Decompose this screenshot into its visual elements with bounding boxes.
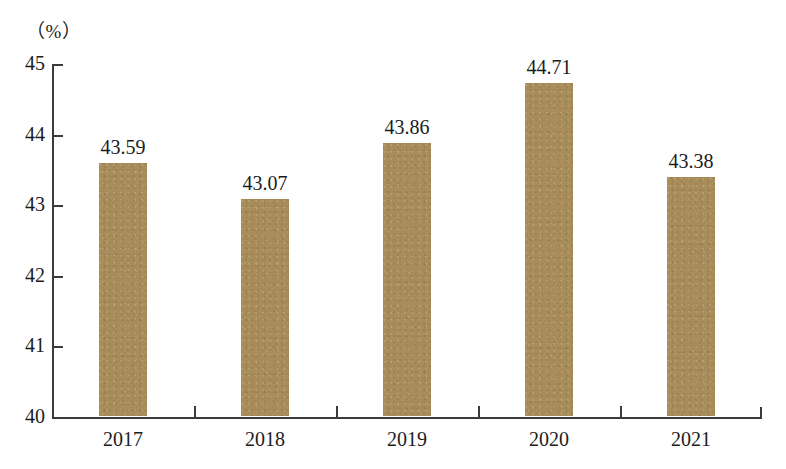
y-tick-45: 45 <box>52 64 63 66</box>
y-tick-label: 40 <box>25 405 45 427</box>
bar-2017: 43.59 <box>99 163 147 416</box>
y-tick-40: 40 <box>52 417 63 419</box>
bar-value-label: 43.07 <box>243 172 288 194</box>
y-axis-unit-label: （%） <box>26 16 81 43</box>
bar-value-label: 43.59 <box>101 136 146 158</box>
bar-value-label: 44.71 <box>527 56 572 78</box>
x-axis-line <box>52 417 762 419</box>
y-axis-line <box>52 64 54 419</box>
x-tick-mark <box>194 406 196 417</box>
x-tick-mark <box>478 406 480 417</box>
bar-value-label: 43.38 <box>669 150 714 172</box>
bar-2019: 43.86 <box>383 143 431 416</box>
y-tick-mark <box>54 417 63 419</box>
x-tick-mark <box>620 406 622 417</box>
y-tick-mark <box>54 346 63 348</box>
y-tick-44: 44 <box>52 135 63 137</box>
category-label-2019: 2019 <box>387 427 427 451</box>
y-tick-41: 41 <box>52 346 63 348</box>
y-tick-42: 42 <box>52 276 63 278</box>
y-tick-mark <box>54 276 63 278</box>
category-label-2020: 2020 <box>529 427 569 451</box>
y-tick-label: 45 <box>25 52 45 74</box>
plot-area: 454443424140 43.5943.0743.8644.7143.38 2… <box>52 64 762 418</box>
y-tick-mark <box>54 64 63 66</box>
cut-off-caption <box>0 458 786 469</box>
bar-2021: 43.38 <box>667 177 715 416</box>
bar-value-label: 43.86 <box>385 116 430 138</box>
x-tick-mark <box>336 406 338 417</box>
y-tick-label: 43 <box>25 193 45 215</box>
bar-chart: （%） 454443424140 43.5943.0743.8644.7143.… <box>0 0 786 469</box>
y-tick-label: 42 <box>25 264 45 286</box>
y-tick-43: 43 <box>52 205 63 207</box>
y-tick-mark <box>54 205 63 207</box>
bar-2020: 44.71 <box>525 83 573 416</box>
category-label-2021: 2021 <box>671 427 711 451</box>
y-tick-label: 41 <box>25 334 45 356</box>
y-tick-label: 44 <box>25 123 45 145</box>
category-label-2018: 2018 <box>245 427 285 451</box>
y-tick-mark <box>54 135 63 137</box>
bar-2018: 43.07 <box>241 199 289 416</box>
x-axis-end-tick <box>760 407 762 419</box>
category-label-2017: 2017 <box>103 427 143 451</box>
